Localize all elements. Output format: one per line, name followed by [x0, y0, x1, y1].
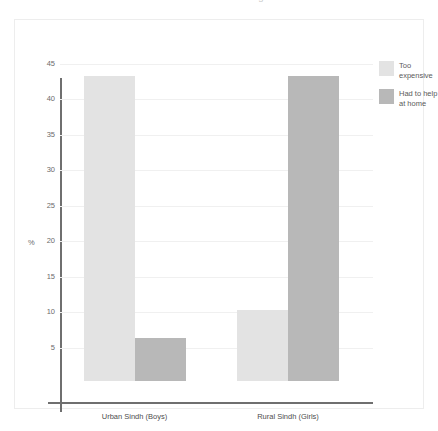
y-axis-tick-labels: 51015202530354045	[31, 20, 55, 431]
legend-swatch-icon	[379, 89, 394, 104]
y-axis-tick-10: 10	[33, 308, 55, 316]
bar-0-1[interactable]	[135, 338, 186, 381]
y-axis-tick-20: 20	[33, 237, 55, 245]
chart-panel: 51015202530354045 % Too expensiveHad to …	[14, 19, 424, 409]
y-axis-tick-30: 30	[33, 166, 55, 174]
legend-label: Had to help at home	[399, 89, 438, 108]
y-axis-tick-45: 45	[33, 60, 55, 68]
bar-1-1[interactable]	[288, 76, 339, 381]
y-axis-tick-35: 35	[33, 131, 55, 139]
legend-item-0[interactable]: Too expensive	[379, 61, 438, 80]
x-axis-label-1: Rural Sindh (Girls)	[218, 412, 358, 421]
y-axis-tick-15: 15	[33, 273, 55, 281]
bar-0-0[interactable]	[84, 76, 135, 381]
legend-label: Too expensive	[399, 61, 438, 80]
y-axis-title: %	[28, 238, 35, 247]
chart-legend: Too expensiveHad to help at home	[379, 61, 438, 117]
x-axis-label-0: Urban Sindh (Boys)	[65, 412, 205, 421]
y-axis-tick-25: 25	[33, 202, 55, 210]
y-axis-line	[60, 78, 62, 412]
bar-1-0[interactable]	[237, 310, 288, 381]
clipped-chart-title: Reasons for never attending school	[0, 0, 438, 3]
x-axis-line	[48, 402, 373, 404]
y-axis-tick-5: 5	[33, 344, 55, 352]
y-axis-tick-40: 40	[33, 95, 55, 103]
gridline	[60, 64, 373, 65]
legend-item-1[interactable]: Had to help at home	[379, 89, 438, 108]
legend-swatch-icon	[379, 61, 394, 76]
